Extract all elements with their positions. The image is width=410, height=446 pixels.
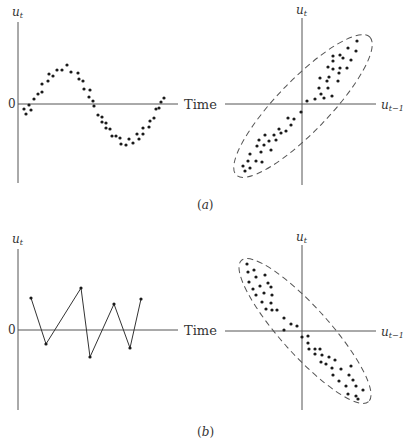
y-axis-label-ut: ut xyxy=(12,232,24,247)
x-axis-label-ut1: ut−1 xyxy=(381,98,404,113)
y-axis-label-ut: ut xyxy=(12,5,24,20)
caption-b: (b) xyxy=(197,425,214,439)
scatter-points xyxy=(241,39,358,172)
figure: ut 0 Time xyxy=(0,0,410,446)
panel-a-scatter: ut ut−1 xyxy=(218,3,404,193)
panel-b-scatter: ut ut−1 xyxy=(224,230,404,418)
caption-a: (a) xyxy=(197,198,214,212)
x-axis-label-ut1: ut−1 xyxy=(381,325,404,340)
zero-label: 0 xyxy=(8,323,16,337)
sine-points xyxy=(22,63,165,146)
zero-label: 0 xyxy=(8,97,16,111)
zigzag-line xyxy=(31,288,141,357)
time-label: Time xyxy=(184,323,217,338)
y-axis-label-ut: ut xyxy=(296,3,308,18)
panel-b-time-series: ut 0 Time xyxy=(8,232,217,410)
y-axis-label-ut: ut xyxy=(296,230,308,245)
panel-a-time-series: ut 0 Time xyxy=(8,5,217,183)
time-label: Time xyxy=(184,97,217,112)
